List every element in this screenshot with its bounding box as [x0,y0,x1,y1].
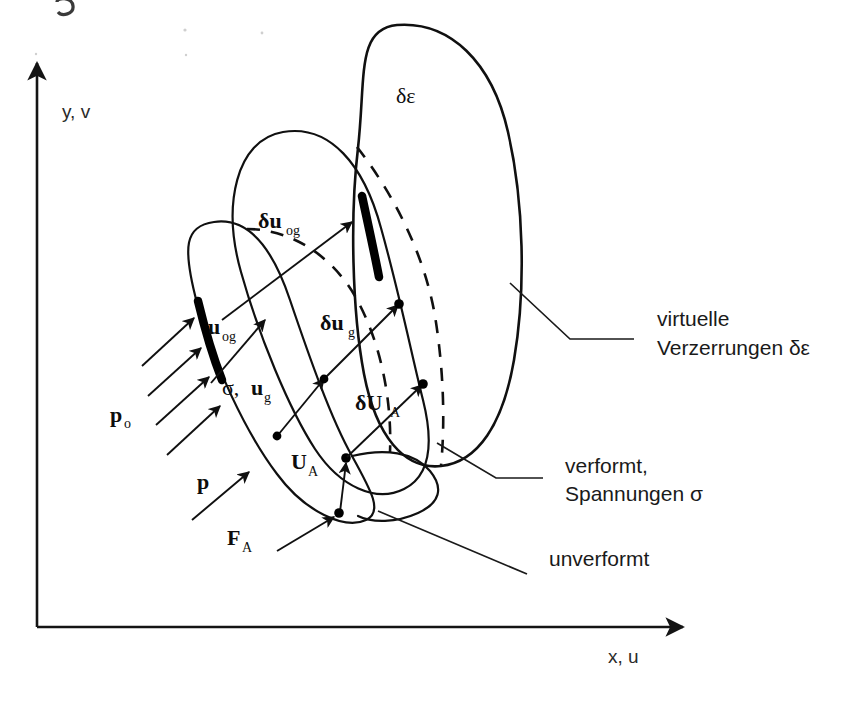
vector-F-A: F A [227,517,334,555]
p-label: p [197,469,209,494]
vector-U-A: U A [291,449,351,518]
delta-epsilon-label: δε [396,83,416,108]
F-A-arrow [277,517,334,551]
legend-virtual-strains: virtuelle Verzerrungen δε [657,307,810,359]
legend-undeformed: unverformt [549,547,650,570]
delta-u-og-subscript: og [286,223,300,238]
legend-deformed: verformt, Spannungen σ [565,454,703,505]
node-A-undeformed [334,508,344,518]
vector-delta-u-g: δu g [320,299,404,383]
x-axis-label: x, u [608,646,639,667]
virtual-work-diagram: y, v x, u δε [0,0,852,720]
material-point-undeformed [273,432,282,441]
legend-undeformed-label: unverformt [549,547,650,570]
material-point-virtual [394,299,404,309]
u-g-label: u [251,375,263,400]
scan-speck [185,54,187,56]
u-og-subscript: og [222,329,236,344]
delta-U-A-label: δU [355,390,382,415]
scan-artifacts [35,0,264,56]
legend-virtual-line1: virtuelle [657,307,729,330]
legend-deformed-line1: verformt, [565,454,648,477]
delta-u-og-label: δu [258,208,282,233]
vector-delta-U-A: δU A [347,379,428,457]
U-A-label: U [291,449,307,474]
p-o-subscript: o [124,416,131,431]
U-A-arrow [340,463,346,512]
sigma-label: σ, [222,375,239,400]
deformed-hidden-edge [247,229,390,452]
figure-canvas: y, v x, u δε [0,0,852,720]
cut-off-glyph-top [57,0,73,14]
delta-U-A-label-group: δU A [355,390,401,420]
p-o-label: p [110,402,122,427]
load-arrow-p: p [192,469,249,520]
sigma-u-g-label-group: σ, u g [222,375,271,405]
undeformed-load-patch [198,301,222,380]
scan-speck [35,53,37,55]
load-arrow-4 [167,406,220,455]
p-o-label-group: p o [110,402,131,431]
leader-deformed [437,443,543,478]
scan-speck [183,28,186,31]
coordinate-axes: y, v x, u [37,63,683,667]
load-arrow-3 [156,377,209,425]
leader-virtual-strains [510,283,634,339]
delta-u-g-subscript: g [348,325,355,340]
scan-speck [261,32,264,35]
legend-leaders [378,283,634,574]
load-arrows-p-o: p o [110,318,220,455]
u-g-subscript: g [264,390,271,405]
leader-undeformed [378,511,527,574]
delta-u-g-label: δu [320,310,344,335]
material-point-deformed [320,375,329,384]
deformed-load-patch [362,196,379,277]
legend-deformed-line2: Spannungen σ [565,482,703,505]
U-A-subscript: A [308,464,319,479]
F-A-label-group: F A [227,525,253,555]
load-arrow-1 [142,318,194,366]
U-A-label-group: U A [291,449,319,479]
delta-U-A-subscript: A [390,405,401,420]
F-A-subscript: A [242,540,253,555]
vector-delta-u-og: δu og [222,208,352,320]
u-og-label: u [208,314,220,339]
legend-virtual-line2: Verzerrungen δε [657,336,810,359]
delta-u-g-label-group: δu g [320,310,355,340]
y-axis-label: y, v [62,101,91,122]
node-A-virtual [418,379,428,389]
load-arrow-2 [148,348,201,396]
F-A-label: F [227,525,240,550]
